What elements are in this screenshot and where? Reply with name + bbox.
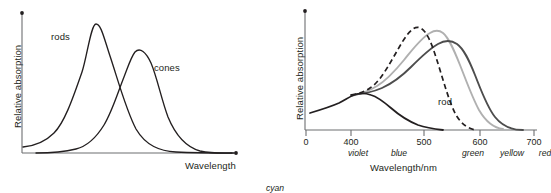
left-label-cones: cones: [154, 62, 180, 73]
left-curve-cones: [36, 50, 234, 153]
right-xtick-400: 400: [343, 137, 358, 147]
right-curve-s-cone: [351, 27, 476, 130]
left-x-axis-title: Wavelength: [185, 160, 236, 171]
right-y-axis-title: Relative absorption: [294, 37, 305, 120]
right-band-blue: blue: [391, 148, 407, 158]
right-x-axis-title: Wavelength/nm: [370, 162, 437, 173]
left-y-axis-title: Relative absorption: [12, 45, 23, 128]
left-chart-plot: [0, 0, 275, 183]
right-label-rod: rod: [438, 96, 452, 107]
right-y-axis-endcap-icon: [303, 9, 307, 13]
right-x-axis-ticks: [306, 130, 534, 136]
left-y-axis-endcap-icon: [20, 11, 24, 15]
right-band-violet: violet: [348, 148, 368, 158]
chart-panel-left: Relative absorption Wavelength rods cone…: [0, 0, 275, 183]
right-xtick-500: 500: [416, 137, 431, 147]
right-xtick-0: 0: [303, 137, 308, 147]
right-band-green: green: [462, 148, 484, 158]
chart-panel-right: Relative absorption 0 400 500 600 700 vi…: [275, 0, 549, 183]
right-curve-m-cone: [351, 31, 503, 129]
right-xtick-700: 700: [526, 137, 541, 147]
right-band-yellow: yellow: [500, 148, 524, 158]
left-label-rods: rods: [51, 31, 70, 42]
left-curve-rods: [23, 24, 232, 153]
right-xtick-600: 600: [472, 137, 487, 147]
right-band-red: red: [539, 148, 551, 158]
right-band-cyan: cyan: [266, 183, 284, 193]
right-curve-rod: [310, 94, 443, 131]
